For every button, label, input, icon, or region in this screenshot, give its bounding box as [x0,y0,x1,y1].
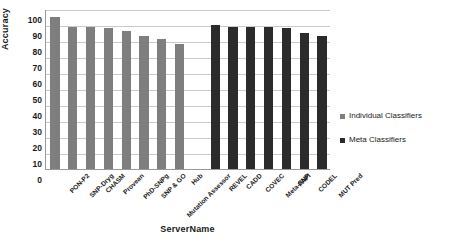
y-axis-tick: 80 [18,48,42,57]
y-axis-tick: 70 [18,64,42,73]
bar [50,17,59,169]
legend-swatch-icon [340,138,345,143]
bar [122,31,131,169]
bar [157,39,166,169]
legend-swatch-icon [340,114,345,119]
y-axis-tick: 60 [18,80,42,89]
x-axis-tick: PAPI [297,172,312,187]
bar [317,36,326,169]
x-axis-tick: PON-P2 [68,172,90,194]
accuracy-bar-chart: Accuracy 1009080706050403020100 PON-P2SN… [0,0,453,244]
x-axis-title: ServerName [45,224,330,234]
bar [104,28,113,169]
bar-series-container [46,10,330,169]
legend-entry: Individual Classifiers [340,112,452,120]
y-axis-tick-labels: 1009080706050403020100 [18,10,42,170]
plot-area [45,10,330,170]
bar [246,27,255,169]
bar [86,27,95,169]
x-axis-tick: Hub [189,172,203,186]
bar [282,28,291,169]
y-axis-tick: 50 [18,96,42,105]
x-axis-tick-labels: PON-P2SNP-DrygCHASMProveanPhD-SNPgSNP & … [45,170,330,222]
y-axis-tick: 90 [18,32,42,41]
y-axis-tick: 30 [18,128,42,137]
x-axis-tick: MUT Pred [337,172,364,199]
y-axis-tick: 10 [18,160,42,169]
chart-legend: Individual ClassifiersMeta Classifiers [340,112,452,160]
x-axis-tick: CODEL [317,172,338,193]
legend-label: Meta Classifiers [349,136,406,144]
y-axis-tick: 20 [18,144,42,153]
bar [264,27,273,169]
y-axis-tick: 100 [18,16,42,25]
y-axis-tick: 40 [18,112,42,121]
bar [175,44,184,169]
bar [139,36,148,169]
y-axis-tick: 0 [18,176,42,185]
x-axis-tick: COVEC [264,172,286,194]
x-axis-tick: CADD [245,172,263,190]
bar [211,25,220,169]
y-axis-title: Accuracy [0,0,16,74]
bar [228,27,237,169]
legend-label: Individual Classifiers [349,112,422,120]
bar [300,33,309,169]
legend-entry: Meta Classifiers [340,136,452,144]
bar [68,27,77,169]
